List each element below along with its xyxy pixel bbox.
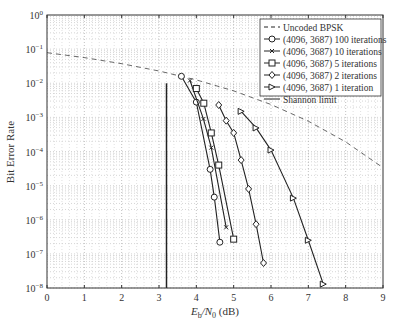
y-tick-label: 10−8 (26, 282, 44, 294)
y-tick-label: 10−1 (26, 43, 44, 55)
x-tick-label: 7 (306, 292, 311, 303)
svg-text:(4096, 3687) 1 iteration: (4096, 3687) 1 iteration (283, 83, 373, 94)
svg-text:Uncoded BPSK: Uncoded BPSK (283, 23, 344, 33)
y-tick-label: 100 (30, 9, 44, 21)
x-tick-label: 3 (157, 292, 162, 303)
ber-chart: 012345678910010−110−210−310−410−510−610−… (0, 0, 395, 327)
x-tick-label: 2 (119, 292, 124, 303)
legend: Uncoded BPSK(4096, 3687) 100 iterations(… (260, 19, 387, 105)
x-tick-label: 8 (343, 292, 348, 303)
x-tick-label: 5 (231, 292, 236, 303)
y-axis-label: Bit Error Rate (4, 121, 16, 183)
x-tick-label: 0 (45, 292, 50, 303)
svg-text:(4096, 3687) 10 iterations: (4096, 3687) 10 iterations (283, 47, 382, 58)
legend-item: (4096, 3687) 100 iterations (264, 35, 387, 46)
y-tick-label: 10−2 (26, 77, 44, 89)
y-tick-label: 10−4 (26, 146, 44, 158)
svg-text:(4096, 3687) 2 iterations: (4096, 3687) 2 iterations (283, 71, 377, 82)
y-tick-label: 10−3 (26, 111, 44, 123)
x-tick-label: 9 (381, 292, 386, 303)
svg-text:Shannon limit: Shannon limit (283, 95, 337, 105)
x-tick-label: 4 (194, 292, 199, 303)
y-tick-label: 10−6 (26, 214, 44, 226)
svg-text:(4096, 3687) 5 iterations: (4096, 3687) 5 iterations (283, 59, 377, 70)
x-tick-label: 1 (82, 292, 87, 303)
x-axis-label: Eb/N0 (dB) (190, 305, 239, 320)
y-tick-label: 10−7 (26, 248, 44, 260)
x-tick-label: 6 (269, 292, 274, 303)
y-tick-label: 10−5 (26, 180, 44, 192)
svg-text:(4096, 3687) 100 iterations: (4096, 3687) 100 iterations (283, 35, 387, 46)
